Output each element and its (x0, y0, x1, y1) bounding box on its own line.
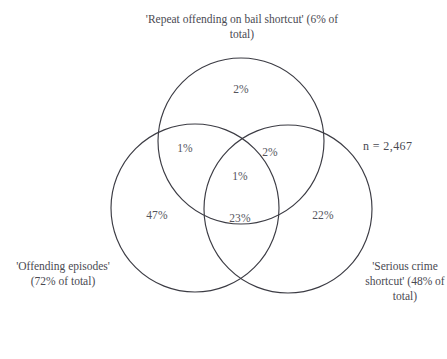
set-label-serious-crime-shortcut: 'Serious crime shortcut' (48% of total) (363, 259, 447, 305)
region-label-left-right-overlap: 23% (229, 212, 251, 224)
set-label-repeat-offending-on-bail: 'Repeat offending on bail shortcut' (6% … (135, 12, 350, 42)
region-label-left-only: 47% (146, 209, 168, 221)
set-label-offending-episodes: 'Offending episodes' (72% of total) (4, 259, 122, 289)
venn-diagram-figure: 2% 1% 2% 1% 47% 23% 22% 'Repeat offendin… (0, 0, 447, 359)
region-label-center-overlap: 1% (232, 170, 248, 182)
sample-size-annotation: n = 2,467 (363, 139, 412, 154)
region-label-top-left-overlap: 1% (177, 142, 193, 154)
venn-circles-svg (0, 0, 447, 359)
region-label-right-only: 22% (312, 209, 334, 221)
region-label-top-only: 2% (233, 83, 249, 95)
venn-circle-offending-episodes (111, 124, 279, 292)
region-label-top-right-overlap: 2% (262, 146, 278, 158)
